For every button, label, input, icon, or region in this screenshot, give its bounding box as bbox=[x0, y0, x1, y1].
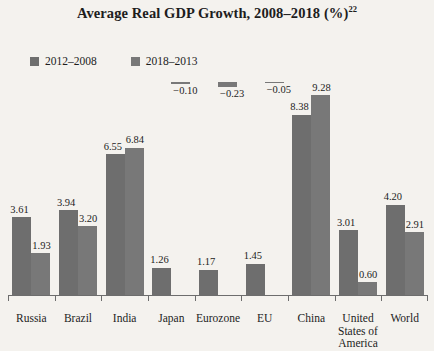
x-axis-tick bbox=[101, 296, 102, 301]
legend-item-label: 2018–2013 bbox=[146, 56, 198, 68]
bar-slot: 6.55 bbox=[106, 82, 125, 295]
bar-value-label: 9.28 bbox=[312, 83, 330, 94]
bar-group-bars: 3.611.93 bbox=[8, 82, 55, 295]
bar-slot: 3.01 bbox=[339, 82, 358, 295]
bar[interactable] bbox=[218, 82, 237, 87]
bar-value-label: 6.55 bbox=[104, 142, 122, 153]
bar[interactable] bbox=[152, 268, 171, 295]
x-axis-category-label: EU bbox=[241, 312, 288, 325]
x-axis-category-label: India bbox=[101, 312, 148, 325]
bar[interactable] bbox=[199, 270, 218, 295]
bar-slot: 1.45 bbox=[246, 82, 265, 295]
x-axis-baseline bbox=[8, 295, 428, 296]
bar-value-label: 3.20 bbox=[79, 214, 97, 225]
bar[interactable] bbox=[31, 253, 50, 295]
x-axis-tick bbox=[288, 296, 289, 301]
bar[interactable] bbox=[106, 154, 125, 295]
bar[interactable] bbox=[265, 82, 284, 83]
x-axis-tick bbox=[148, 296, 149, 301]
bar-slot: −0.05 bbox=[265, 82, 284, 295]
bar-slot: −0.23 bbox=[218, 82, 237, 295]
bar-group: 1.45−0.05 bbox=[241, 82, 288, 295]
bar-slot: 4.20 bbox=[386, 82, 405, 295]
bar-slot: 6.84 bbox=[125, 82, 144, 295]
bar-value-label: 3.61 bbox=[10, 205, 28, 216]
x-axis-tick bbox=[195, 296, 196, 301]
legend-swatch-icon bbox=[131, 57, 140, 66]
bar[interactable] bbox=[386, 205, 405, 295]
bar[interactable] bbox=[292, 115, 311, 295]
x-axis-tick bbox=[427, 296, 428, 301]
bar-value-label: 3.01 bbox=[337, 218, 355, 229]
bar-slot: 9.28 bbox=[311, 82, 330, 295]
legend-item: 2012–2008 bbox=[30, 56, 97, 68]
x-axis-tick bbox=[335, 296, 336, 301]
bar[interactable] bbox=[339, 230, 358, 295]
legend-item: 2018–2013 bbox=[131, 56, 198, 68]
bar-group-bars: 6.556.84 bbox=[101, 82, 148, 295]
x-axis-category-label: Japan bbox=[148, 312, 195, 325]
bar-group: 3.611.93 bbox=[8, 82, 55, 295]
x-axis-tick bbox=[381, 296, 382, 301]
bar-value-label: 3.94 bbox=[57, 198, 75, 209]
bar[interactable] bbox=[171, 82, 190, 84]
bar-slot: 1.93 bbox=[31, 82, 50, 295]
x-axis-category-label: Russia bbox=[8, 312, 55, 325]
bar-group: 3.010.60 bbox=[335, 82, 382, 295]
plot-area: 3.611.933.943.206.556.841.26−0.101.17−0.… bbox=[8, 82, 428, 306]
bar-value-label: 0.60 bbox=[359, 270, 377, 281]
bar-slot: 0.60 bbox=[358, 82, 377, 295]
bar-group: 3.943.20 bbox=[55, 82, 102, 295]
bar-slot: 3.61 bbox=[12, 82, 31, 295]
bar-value-label: 2.91 bbox=[406, 220, 424, 231]
chart-title: Average Real GDP Growth, 2008–2018 (%)22 bbox=[0, 4, 434, 22]
bar[interactable] bbox=[125, 148, 144, 295]
legend-item-label: 2012–2008 bbox=[45, 56, 97, 68]
bar-group-bars: 1.45−0.05 bbox=[241, 82, 288, 295]
bar[interactable] bbox=[59, 210, 78, 295]
bar-slot: −0.10 bbox=[171, 82, 190, 295]
bar-slot: 3.20 bbox=[78, 82, 97, 295]
x-axis-category-label: Brazil bbox=[55, 312, 102, 325]
bar-group: 6.556.84 bbox=[101, 82, 148, 295]
bar-value-label: 8.38 bbox=[290, 102, 308, 113]
x-axis-tick bbox=[8, 296, 9, 301]
x-axis-category-labels: RussiaBrazilIndiaJapanEurozoneEUChinaUni… bbox=[8, 312, 428, 351]
bar-group: 1.17−0.23 bbox=[195, 82, 242, 295]
bar-group-bars: 3.943.20 bbox=[55, 82, 102, 295]
bar[interactable] bbox=[78, 226, 97, 295]
bar-slot: 2.91 bbox=[405, 82, 424, 295]
bar-slot: 3.94 bbox=[59, 82, 78, 295]
bar-group-bars: 1.26−0.10 bbox=[148, 82, 195, 295]
bar-group-bars: 4.202.91 bbox=[381, 82, 428, 295]
bar-value-label: 1.17 bbox=[197, 257, 215, 268]
x-axis-tick bbox=[241, 296, 242, 301]
bar[interactable] bbox=[12, 217, 31, 295]
x-axis-category-label: Eurozone bbox=[195, 312, 242, 325]
x-axis-category-label: United States of America bbox=[335, 312, 382, 350]
bar[interactable] bbox=[311, 95, 330, 295]
bar-value-label: 1.45 bbox=[244, 251, 262, 262]
x-axis-tick bbox=[55, 296, 56, 301]
bar-value-label: 4.20 bbox=[384, 192, 402, 203]
bar-value-label: 6.84 bbox=[126, 135, 144, 146]
bar-slot: 1.17 bbox=[199, 82, 218, 295]
chart-title-footnote-marker: 22 bbox=[348, 4, 357, 14]
legend-swatch-icon bbox=[30, 57, 39, 66]
x-axis-category-label: China bbox=[288, 312, 335, 325]
bar-group-bars: 1.17−0.23 bbox=[195, 82, 242, 295]
bar-group: 8.389.28 bbox=[288, 82, 335, 295]
bar-slot: 1.26 bbox=[152, 82, 171, 295]
chart-title-text: Average Real GDP Growth, 2008–2018 (%) bbox=[77, 5, 348, 21]
x-axis-category-label: World bbox=[381, 312, 428, 325]
chart-legend: 2012–20082018–2013 bbox=[30, 56, 198, 68]
bar-value-label: 1.26 bbox=[150, 255, 168, 266]
bar-value-label: 1.93 bbox=[32, 241, 50, 252]
bar-group-bars: 3.010.60 bbox=[335, 82, 382, 295]
bar[interactable] bbox=[358, 282, 377, 295]
bar-group: 4.202.91 bbox=[381, 82, 428, 295]
bar[interactable] bbox=[405, 232, 424, 295]
bar[interactable] bbox=[246, 264, 265, 295]
bar-group: 1.26−0.10 bbox=[148, 82, 195, 295]
